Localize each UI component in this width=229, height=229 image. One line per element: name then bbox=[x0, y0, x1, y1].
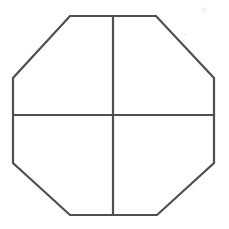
octagon-figure: Octagon divided into four quadrants Line… bbox=[0, 0, 229, 229]
paper-speck-3 bbox=[182, 39, 185, 42]
paper-speck-2 bbox=[184, 33, 187, 36]
paper-speck-1 bbox=[201, 7, 207, 13]
figure-canvas: Octagon divided into four quadrants Line… bbox=[0, 0, 229, 229]
